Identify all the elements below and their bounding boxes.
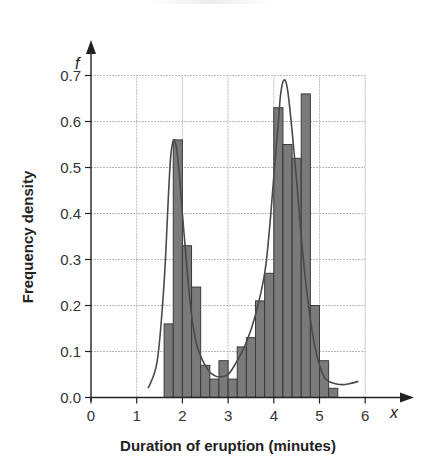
- y-tick-label: 0.3: [60, 251, 81, 268]
- y-tick-label: 0.1: [60, 343, 81, 360]
- histogram-bar: [320, 361, 329, 398]
- x-tick-label: 3: [224, 407, 232, 424]
- y-axis-arrow-icon: [86, 40, 96, 54]
- y-tick-label: 0.5: [60, 159, 81, 176]
- histogram-bar: [256, 301, 265, 398]
- x-tick-label: 0: [87, 407, 95, 424]
- histogram-bar: [173, 140, 182, 398]
- x-tick-label: 5: [315, 407, 323, 424]
- histogram-bar: [219, 361, 228, 398]
- y-axis-ticks: 0.00.10.20.30.40.50.60.7: [60, 67, 91, 406]
- histogram-bars: [164, 94, 338, 398]
- x-axis-ticks: 0123456: [87, 398, 370, 424]
- histogram-bar: [283, 145, 292, 398]
- x-tick-label: 2: [178, 407, 186, 424]
- x-tick-label: 4: [270, 407, 278, 424]
- histogram-bar: [246, 338, 255, 398]
- histogram-bar: [237, 347, 246, 398]
- histogram-chart: 0.00.10.20.30.40.50.60.7 0123456 f x Dur…: [0, 0, 422, 476]
- x-tick-label: 1: [133, 407, 141, 424]
- histogram-bar: [210, 379, 219, 397]
- histogram-bar: [164, 324, 173, 398]
- y-tick-label: 0.4: [60, 205, 81, 222]
- histogram-bar: [329, 388, 338, 397]
- x-axis-title: Duration of eruption (minutes): [120, 437, 336, 454]
- x-axis-arrow-icon: [400, 393, 414, 403]
- y-axis-title: Frequency density: [19, 170, 36, 303]
- y-tick-label: 0.0: [60, 389, 81, 406]
- histogram-bar: [310, 306, 319, 398]
- histogram-bar: [265, 273, 274, 397]
- x-tick-label: 6: [361, 407, 369, 424]
- grid-lines: [91, 76, 365, 398]
- y-tick-label: 0.2: [60, 297, 81, 314]
- y-tick-label: 0.6: [60, 113, 81, 130]
- histogram-bar: [292, 158, 301, 397]
- x-axis-variable: x: [389, 404, 399, 421]
- histogram-bar: [228, 379, 237, 397]
